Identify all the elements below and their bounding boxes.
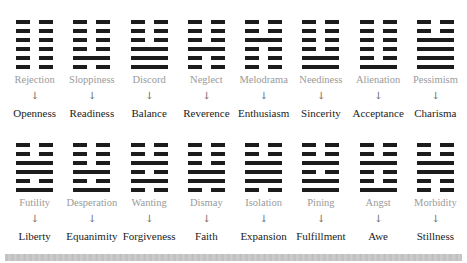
hexagram-card: Desperation ↓ Equanimity xyxy=(63,143,120,243)
solid-line xyxy=(417,161,454,165)
broken-line xyxy=(417,179,454,183)
solid-line xyxy=(302,65,339,69)
down-arrow-icon: ↓ xyxy=(30,90,38,102)
negative-state-label: Wanting xyxy=(131,197,166,209)
solid-line xyxy=(245,38,282,42)
broken-line xyxy=(131,20,168,24)
broken-line xyxy=(417,152,454,156)
negative-state-label: Angst xyxy=(366,197,391,209)
positive-state-label: Reverence xyxy=(183,107,229,120)
solid-line xyxy=(360,65,397,69)
broken-line xyxy=(131,143,168,147)
broken-line xyxy=(188,38,225,42)
hexagram-card: Angst ↓ Awe xyxy=(350,143,407,243)
down-arrow-icon: ↓ xyxy=(30,213,38,225)
hexagram-icon xyxy=(16,20,53,69)
solid-line xyxy=(131,179,168,183)
positive-state-label: Faith xyxy=(195,230,218,243)
hexagram-icon xyxy=(417,20,454,69)
solid-line xyxy=(131,65,168,69)
negative-state-label: Melodrama xyxy=(239,74,287,86)
solid-line xyxy=(245,179,282,183)
broken-line xyxy=(188,65,225,69)
solid-line xyxy=(417,56,454,60)
hexagram-icon xyxy=(360,143,397,192)
broken-line xyxy=(131,170,168,174)
hexagram-card: Pessimism ↓ Charisma xyxy=(407,20,464,120)
positive-state-label: Equanimity xyxy=(66,230,117,243)
hexagram-card: Morbidity ↓ Stillness xyxy=(407,143,464,243)
solid-line xyxy=(73,188,110,192)
positive-state-label: Forgiveness xyxy=(123,230,176,243)
broken-line xyxy=(302,47,339,51)
negative-state-label: Desperation xyxy=(67,197,118,209)
broken-line xyxy=(245,47,282,51)
solid-line xyxy=(73,170,110,174)
negative-state-label: Sloppiness xyxy=(69,74,115,86)
negative-state-label: Rejection xyxy=(15,74,55,86)
positive-state-label: Enthusiasm xyxy=(238,107,289,120)
positive-state-label: Balance xyxy=(131,107,166,120)
solid-line xyxy=(302,161,339,165)
hexagram-card: Futility ↓ Liberty xyxy=(6,143,63,243)
solid-line xyxy=(302,179,339,183)
negative-state-label: Neediness xyxy=(299,74,342,86)
negative-state-label: Pessimism xyxy=(413,74,458,86)
solid-line xyxy=(188,179,225,183)
solid-line xyxy=(16,170,53,174)
positive-state-label: Awe xyxy=(368,230,388,243)
positive-state-label: Expansion xyxy=(240,230,286,243)
hexagram-card: Isolation ↓ Expansion xyxy=(235,143,292,243)
broken-line xyxy=(360,152,397,156)
broken-line xyxy=(245,20,282,24)
broken-line xyxy=(73,29,110,33)
negative-state-label: Neglect xyxy=(190,74,223,86)
positive-state-label: Fulfillment xyxy=(296,230,346,243)
broken-line xyxy=(302,29,339,33)
hexagram-icon xyxy=(245,20,282,69)
broken-line xyxy=(73,38,110,42)
positive-state-label: Readiness xyxy=(70,107,115,120)
broken-line xyxy=(245,65,282,69)
hexagram-card: Wanting ↓ Forgiveness xyxy=(121,143,178,243)
negative-state-label: Alienation xyxy=(356,74,400,86)
broken-line xyxy=(188,152,225,156)
broken-line xyxy=(245,188,282,192)
down-arrow-icon: ↓ xyxy=(88,90,96,102)
positive-state-label: Charisma xyxy=(414,107,456,120)
broken-line xyxy=(302,20,339,24)
broken-line xyxy=(16,179,53,183)
broken-line xyxy=(245,56,282,60)
broken-line xyxy=(417,20,454,24)
bottom-divider-band xyxy=(5,254,462,261)
hexagram-row-1: Rejection ↓ Openness Sloppiness ↓ Readin… xyxy=(6,20,464,120)
solid-line xyxy=(417,170,454,174)
down-arrow-icon: ↓ xyxy=(145,213,153,225)
down-arrow-icon: ↓ xyxy=(317,213,325,225)
solid-line xyxy=(188,47,225,51)
broken-line xyxy=(245,152,282,156)
broken-line xyxy=(417,29,454,33)
broken-line xyxy=(417,188,454,192)
hexagram-card: Discord ↓ Balance xyxy=(121,20,178,120)
hexagram-card: Neediness ↓ Sincerity xyxy=(292,20,349,120)
broken-line xyxy=(188,143,225,147)
solid-line xyxy=(245,170,282,174)
solid-line xyxy=(16,161,53,165)
hexagram-icon xyxy=(131,20,168,69)
hexagram-icon xyxy=(245,143,282,192)
hexagram-card: Neglect ↓ Reverence xyxy=(178,20,235,120)
broken-line xyxy=(302,143,339,147)
broken-line xyxy=(16,56,53,60)
hexagram-icon xyxy=(188,20,225,69)
hexagram-card: Rejection ↓ Openness xyxy=(6,20,63,120)
broken-line xyxy=(16,65,53,69)
negative-state-label: Isolation xyxy=(245,197,282,209)
down-arrow-icon: ↓ xyxy=(145,90,153,102)
down-arrow-icon: ↓ xyxy=(317,90,325,102)
down-arrow-icon: ↓ xyxy=(431,213,439,225)
solid-line xyxy=(73,56,110,60)
broken-line xyxy=(16,152,53,156)
broken-line xyxy=(73,65,110,69)
broken-line xyxy=(16,29,53,33)
